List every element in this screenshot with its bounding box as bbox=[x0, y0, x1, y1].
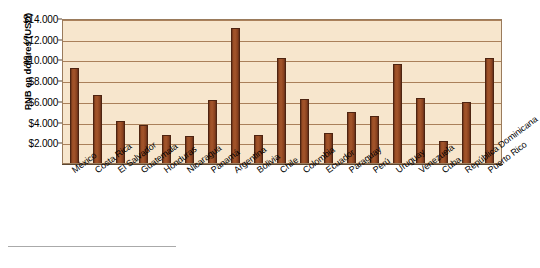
bar[interactable] bbox=[70, 68, 79, 163]
bar-slot bbox=[178, 20, 201, 163]
bar-slot bbox=[293, 20, 316, 163]
bar-slot bbox=[247, 20, 270, 163]
bar-slot bbox=[432, 20, 455, 163]
y-axis-tick-label: $6.000 bbox=[29, 96, 58, 107]
y-axis-tick-label: $2.000 bbox=[29, 138, 58, 149]
bar-slot bbox=[340, 20, 363, 163]
bars-container bbox=[63, 20, 501, 163]
bar-slot bbox=[409, 20, 432, 163]
bar-slot bbox=[155, 20, 178, 163]
bar-slot bbox=[455, 20, 478, 163]
y-axis-tick-labels: $14.000$12.000$10.000$8.000$6.000$4.000$… bbox=[0, 12, 62, 164]
bar[interactable] bbox=[277, 58, 286, 163]
bar-slot bbox=[224, 20, 247, 163]
bar-slot bbox=[109, 20, 132, 163]
bar[interactable] bbox=[300, 99, 309, 163]
bar[interactable] bbox=[393, 64, 402, 163]
bar-slot bbox=[270, 20, 293, 163]
x-axis-tick-labels: MéxicoCosta RicaEl SalvadorGuatemalaHond… bbox=[62, 165, 502, 245]
bar[interactable] bbox=[462, 102, 471, 163]
bar-slot bbox=[201, 20, 224, 163]
bar-slot bbox=[63, 20, 86, 163]
y-axis-tick-label: $12.000 bbox=[23, 34, 58, 45]
y-axis-tick-label: $14.000 bbox=[23, 14, 58, 25]
y-axis-tick-label: $4.000 bbox=[29, 117, 58, 128]
bar[interactable] bbox=[231, 28, 240, 163]
bar-slot bbox=[363, 20, 386, 163]
bar-slot bbox=[317, 20, 340, 163]
bar-slot bbox=[386, 20, 409, 163]
y-axis-tick-label: $10.000 bbox=[23, 55, 58, 66]
bar-slot bbox=[86, 20, 109, 163]
y-axis-tick-label: $8.000 bbox=[29, 76, 58, 87]
footer-rule bbox=[8, 246, 176, 247]
